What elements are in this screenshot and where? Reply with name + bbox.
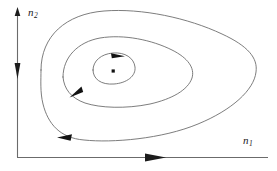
outer-orbit-curve [41,10,256,140]
x-axis-label: n1 [243,135,252,146]
middle-orbit-curve [63,37,193,108]
orbit-curves-group [41,10,256,140]
middle-orbit-arrowhead [70,87,84,98]
y-axis-label-base: n [28,6,34,18]
phase-portrait-figure: n2 n1 [0,0,277,171]
y-axis-label-subscript: 2 [34,11,38,20]
phase-portrait-canvas [0,0,277,171]
y-axis-arrowhead-up [15,7,21,16]
x-axis-arrowhead-right [145,153,166,161]
x-axis-label-base: n [243,134,249,146]
y-axis-label: n2 [28,7,37,18]
y-axis-arrowhead-down [15,63,21,79]
equilibrium-point [112,69,115,72]
outer-orbit-arrowhead [57,134,72,141]
x-axis-label-subscript: 1 [249,139,253,148]
flow-arrowheads-group [57,53,125,141]
